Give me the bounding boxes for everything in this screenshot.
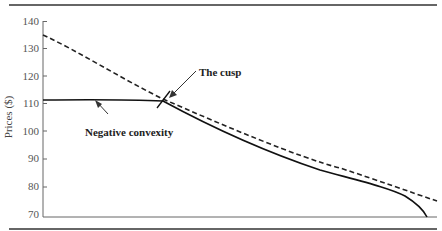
tick-label-140: 140 (23, 15, 40, 27)
tick-label-80: 80 (28, 180, 40, 192)
chart: 70 80 90 100 110 120 130 140 Prices ($) … (0, 0, 442, 231)
y-axis-label: Prices ($) (2, 95, 15, 138)
cusp-label: The cusp (199, 66, 242, 78)
tick-label-130: 130 (23, 42, 40, 54)
y-ticks (43, 22, 47, 188)
cusp-marker (157, 91, 170, 108)
solid-price-curve (43, 100, 427, 217)
dashed-price-curve (43, 35, 437, 201)
tick-label-90: 90 (28, 152, 40, 164)
cusp-arrow (171, 71, 196, 96)
negative-convexity-label: Negative convexity (85, 126, 174, 138)
tick-label-100: 100 (23, 125, 40, 137)
tick-label-70: 70 (28, 208, 40, 220)
y-tick-labels: 70 80 90 100 110 120 130 140 (23, 15, 40, 220)
tick-label-110: 110 (23, 97, 40, 109)
tick-label-120: 120 (23, 70, 40, 82)
